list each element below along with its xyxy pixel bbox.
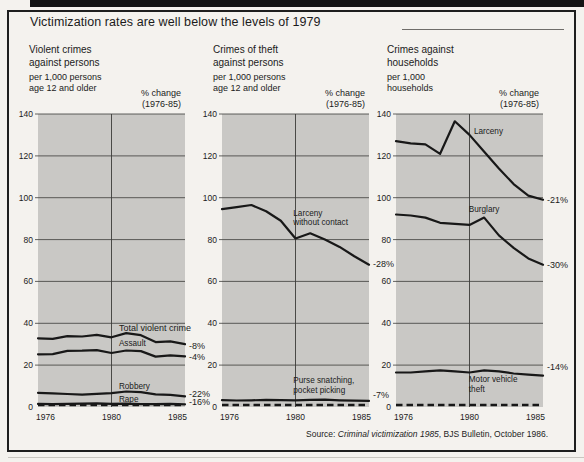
pct-change-label-motor-vehicle-theft: -14% [547, 362, 568, 372]
panel-title-line: Crimes of theft [213, 44, 284, 57]
y-tick-label-80: 80 [208, 235, 218, 245]
pct-change-header-line: (1976-85) [499, 99, 539, 110]
series-label-larceny-without-contact: Larceny [293, 209, 323, 218]
panel-unit-line: age 12 and older [29, 83, 102, 94]
panel-title-line: Violent crimes [29, 44, 100, 57]
x-tick-label-1980: 1980 [460, 412, 479, 422]
chart-household-crimes: 020406080100120140197619801985Larceny-21… [370, 110, 574, 430]
panel-title-line: against persons [29, 57, 100, 70]
panel-unit-line: age 12 and older [213, 83, 286, 94]
panel-unit-label: per 1,000 households [387, 72, 433, 94]
panel-unit-label: per 1,000 persons age 12 and older [29, 72, 102, 94]
pct-change-header-line: (1976-85) [141, 99, 181, 110]
pct-change-label-burglary: -30% [547, 260, 568, 270]
title-rule [402, 29, 564, 30]
x-tick-label-1980: 1980 [286, 412, 305, 422]
panel-title-line: households [387, 57, 454, 70]
series-label-purse-snatching-pocket-picking: Purse snatching, [293, 376, 354, 385]
y-tick-label-80: 80 [382, 235, 392, 245]
series-label-purse-snatching-pocket-picking: pocket picking [293, 386, 345, 395]
series-label-motor-vehicle-theft: Motor vehicle [469, 375, 518, 384]
y-tick-label-140: 140 [203, 110, 217, 119]
source-note: Source: Criminal victimization 1985, BJS… [306, 429, 548, 439]
panel-violent-crimes: Violent crimes against persons per 1,000… [12, 42, 216, 442]
pct-change-header-line: (1976-85) [325, 99, 365, 110]
source-prefix: Source: [306, 429, 338, 439]
pct-change-header-line: % change [141, 88, 181, 99]
panel-title: Crimes of theft against persons [213, 44, 284, 69]
x-tick-label-1985: 1985 [526, 412, 545, 422]
panel-unit-line: per 1,000 persons [29, 72, 102, 83]
y-tick-label-140: 140 [19, 110, 33, 119]
series-label-burglary: Burglary [469, 205, 500, 214]
pct-change-label-larceny: -21% [547, 195, 568, 205]
panel-title-line: Crimes against [387, 44, 454, 57]
x-tick-label-1976: 1976 [220, 412, 239, 422]
pct-change-header: % change (1976-85) [499, 88, 539, 110]
y-tick-label-20: 20 [208, 360, 218, 370]
source-suffix: , BJS Bulletin, October 1986. [439, 429, 548, 439]
series-label-larceny: Larceny [474, 127, 504, 136]
panel-unit-line: households [387, 83, 433, 94]
y-tick-label-20: 20 [24, 360, 34, 370]
y-tick-label-100: 100 [377, 193, 391, 203]
panel-title-line: against persons [213, 57, 284, 70]
y-tick-label-40: 40 [24, 318, 34, 328]
y-tick-label-100: 100 [203, 193, 217, 203]
y-tick-label-0: 0 [386, 402, 391, 412]
x-tick-label-1985: 1985 [168, 412, 187, 422]
top-rule [30, 0, 584, 7]
source-citation: Criminal victimization 1985 [338, 429, 439, 439]
pct-change-header: % change (1976-85) [325, 88, 365, 110]
series-label-robbery: Robbery [119, 382, 151, 391]
x-tick-label-1976: 1976 [394, 412, 413, 422]
page-shadow-line [8, 457, 584, 458]
y-tick-label-80: 80 [24, 235, 34, 245]
pct-change-header-line: % change [499, 88, 539, 99]
y-tick-label-140: 140 [377, 110, 391, 119]
pct-change-header: % change (1976-85) [141, 88, 181, 110]
series-label-assault: Assault [119, 339, 147, 348]
series-label-larceny-without-contact: without contact [292, 218, 348, 227]
y-tick-label-0: 0 [28, 402, 33, 412]
y-tick-label-20: 20 [382, 360, 392, 370]
y-tick-label-120: 120 [203, 151, 217, 161]
y-tick-label-120: 120 [377, 151, 391, 161]
series-label-rape: Rape [119, 395, 139, 404]
series-label-total-violent-crime: Total violent crime [119, 324, 191, 333]
chart-violent-crimes: 020406080100120140197619801985Total viol… [12, 110, 216, 430]
pct-change-header-line: % change [325, 88, 365, 99]
y-tick-label-60: 60 [208, 276, 218, 286]
panel-unit-label: per 1,000 persons age 12 and older [213, 72, 286, 94]
figure-title: Victimization rates are well below the l… [30, 15, 321, 29]
y-tick-label-40: 40 [382, 318, 392, 328]
y-tick-label-120: 120 [19, 151, 33, 161]
y-tick-label-100: 100 [19, 193, 33, 203]
y-tick-label-0: 0 [212, 402, 217, 412]
y-tick-label-60: 60 [382, 276, 392, 286]
x-tick-label-1980: 1980 [102, 412, 121, 422]
panel-unit-line: per 1,000 persons [213, 72, 286, 83]
y-tick-label-60: 60 [24, 276, 34, 286]
figure-page: Victimization rates are well below the l… [0, 0, 584, 462]
panel-unit-line: per 1,000 [387, 72, 433, 83]
panel-title: Violent crimes against persons [29, 44, 100, 69]
x-tick-label-1976: 1976 [36, 412, 55, 422]
series-line-rape [38, 403, 185, 404]
series-line-purse-snatching-pocket-picking [222, 400, 369, 401]
panel-household-crimes: Crimes against households per 1,000 hous… [370, 42, 574, 442]
panel-title: Crimes against households [387, 44, 454, 69]
x-tick-label-1985: 1985 [352, 412, 371, 422]
series-label-motor-vehicle-theft: theft [469, 385, 486, 394]
y-tick-label-40: 40 [208, 318, 218, 328]
